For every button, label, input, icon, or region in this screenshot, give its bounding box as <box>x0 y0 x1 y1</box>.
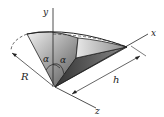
diagram-canvas: y x z R h α α <box>0 0 164 117</box>
cone-body <box>27 32 127 87</box>
dashed-arc <box>11 34 27 50</box>
z-axis-line <box>55 87 96 108</box>
x-axis-label: x <box>151 28 156 38</box>
alpha-right-label: α <box>60 55 66 65</box>
alpha-left-label: α <box>43 54 49 64</box>
height-arrow-icon <box>135 56 140 60</box>
height-arrow-icon <box>72 90 77 94</box>
y-axis-label: y <box>42 7 49 17</box>
z-axis-label: z <box>94 106 100 116</box>
height-label: h <box>113 74 119 85</box>
radius-label: R <box>20 71 29 82</box>
cone-diagram: y x z R h α α <box>0 0 164 117</box>
